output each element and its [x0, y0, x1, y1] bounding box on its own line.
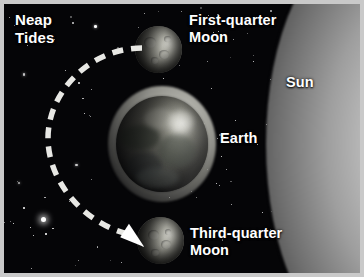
star — [69, 201, 70, 202]
third-quarter-moon-body — [137, 217, 184, 264]
star — [10, 221, 11, 222]
star — [70, 16, 72, 18]
sun-label: Sun — [286, 74, 314, 91]
star — [18, 182, 21, 185]
earth-terminator — [116, 96, 208, 192]
star — [30, 227, 31, 228]
star — [138, 27, 139, 28]
neap-tides-label: Neap Tides — [15, 11, 54, 46]
first-quarter-moon-label: First-quarter Moon — [189, 12, 277, 46]
star — [226, 169, 227, 170]
first-quarter-moon-body — [135, 26, 182, 73]
star — [117, 47, 119, 49]
star — [253, 55, 254, 56]
star — [45, 233, 47, 235]
third-quarter-moon-label: Third-quarter Moon — [190, 225, 282, 259]
star — [262, 212, 263, 213]
star — [200, 7, 202, 9]
star — [91, 89, 93, 91]
star — [207, 61, 208, 62]
star — [65, 70, 66, 71]
star — [89, 115, 90, 116]
star — [253, 61, 254, 62]
star — [110, 260, 112, 262]
star — [52, 118, 53, 119]
star — [75, 265, 76, 266]
star — [23, 73, 26, 76]
bright-star — [41, 217, 46, 222]
space-scene: Neap Tides First-quarter Moon Sun Earth … — [4, 4, 360, 273]
star — [78, 260, 79, 261]
first-quarter-moon-shadow — [135, 26, 182, 73]
star — [17, 181, 18, 182]
star — [9, 17, 10, 18]
star — [231, 204, 232, 205]
star — [90, 116, 91, 117]
star — [94, 25, 97, 28]
star — [97, 246, 99, 248]
star — [217, 138, 218, 139]
star — [78, 82, 80, 84]
star — [72, 22, 74, 24]
earth-group — [108, 86, 216, 202]
star — [221, 156, 222, 157]
earth-globe — [116, 96, 208, 192]
star — [230, 181, 232, 183]
star — [216, 183, 217, 184]
star — [44, 197, 46, 199]
star — [158, 11, 159, 12]
star — [31, 268, 32, 269]
star — [181, 11, 182, 12]
star — [52, 228, 54, 230]
star — [4, 222, 5, 223]
star — [235, 120, 236, 121]
star — [179, 65, 180, 66]
star — [84, 113, 85, 114]
star — [219, 185, 220, 186]
neap-tides-figure: Neap Tides First-quarter Moon Sun Earth … — [0, 0, 364, 277]
star — [144, 13, 145, 14]
star — [91, 179, 92, 180]
star — [82, 98, 84, 100]
earth-label: Earth — [220, 130, 258, 147]
star — [13, 223, 14, 224]
third-quarter-moon-shadow — [137, 217, 184, 264]
star — [163, 78, 164, 79]
star — [121, 262, 122, 263]
star — [75, 164, 78, 167]
star — [23, 207, 25, 209]
star — [33, 235, 35, 237]
star — [230, 57, 231, 58]
